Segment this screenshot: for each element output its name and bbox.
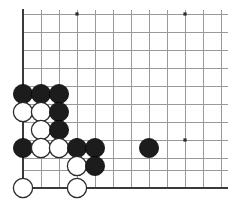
- white-stone[interactable]: [31, 120, 50, 139]
- goban-canvas: [0, 0, 243, 207]
- white-stone[interactable]: [67, 178, 86, 197]
- white-stone[interactable]: [67, 156, 86, 175]
- white-stone[interactable]: [31, 102, 50, 121]
- black-stone[interactable]: [31, 84, 50, 103]
- black-stone[interactable]: [13, 138, 32, 157]
- white-stone[interactable]: [31, 138, 50, 157]
- star-point-icon: [75, 12, 78, 15]
- white-stone[interactable]: [13, 178, 32, 197]
- black-stone[interactable]: [49, 84, 68, 103]
- black-stone[interactable]: [85, 156, 104, 175]
- white-stone[interactable]: [49, 138, 68, 157]
- white-stone[interactable]: [13, 102, 32, 121]
- black-stone[interactable]: [49, 120, 68, 139]
- go-board: [0, 0, 243, 207]
- star-point-icon: [183, 138, 186, 141]
- stones-layer: [13, 84, 158, 197]
- black-stone[interactable]: [67, 138, 86, 157]
- star-point-icon: [183, 12, 186, 15]
- black-stone[interactable]: [139, 138, 158, 157]
- black-stone[interactable]: [85, 138, 104, 157]
- black-stone[interactable]: [13, 84, 32, 103]
- black-stone[interactable]: [49, 102, 68, 121]
